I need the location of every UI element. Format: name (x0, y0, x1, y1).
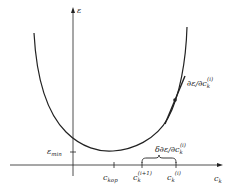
step-label: δ∂ε/∂ck(i) (155, 142, 186, 155)
x-axis-label: ck (214, 174, 222, 184)
c-k-i-plus-1-label: ck(i+1) (133, 170, 152, 183)
y-axis: ε (71, 6, 81, 176)
epsilon-min-label: εmin (47, 147, 62, 157)
c-k-i-label: ck(i) (167, 170, 181, 183)
c-kop-label: ckop (103, 173, 118, 184)
y-axis-label: ε (77, 6, 81, 15)
gradient-label: ∂ε/∂ck(i) (187, 76, 213, 89)
error-curve (34, 27, 187, 151)
y-tick-epsilon-min: εmin (47, 147, 76, 157)
error-curve-diagram: ε ck εmin ckop ck(i+1) ck(i) ∂ε/∂ck(i) δ… (0, 0, 236, 193)
y-axis-arrow-icon (71, 7, 75, 13)
step-brace (142, 155, 176, 163)
current-point-dot (173, 98, 177, 102)
x-axis-arrow-icon (217, 163, 223, 167)
